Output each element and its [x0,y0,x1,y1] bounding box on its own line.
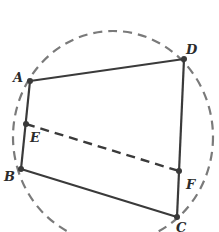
segment-cb [21,169,177,217]
label-a: A [11,70,23,85]
geometry-diagram: A B C D E F [0,0,219,232]
point-f [176,168,182,174]
label-b: B [3,169,15,184]
label-d: D [185,42,198,57]
segment-ad [30,59,184,81]
point-e [23,121,29,127]
label-e: E [29,130,41,145]
label-f: F [185,177,196,192]
point-b [18,166,24,172]
segment-ef [26,124,179,171]
point-a [27,78,33,84]
label-c: C [176,220,187,232]
segment-dc [177,59,184,217]
